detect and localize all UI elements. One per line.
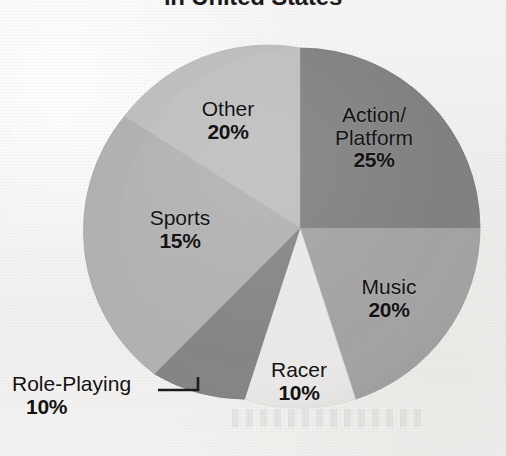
slice-label-action-platform: Action/ Platform 25% xyxy=(311,104,437,172)
slice-name-music: Music xyxy=(337,276,441,299)
slice-name-sports: Sports xyxy=(130,207,230,230)
slice-percent-music: 20% xyxy=(337,299,441,322)
slice-name-action-platform-2: Platform xyxy=(311,127,437,150)
slice-name-action-platform: Action/ xyxy=(311,104,437,127)
slice-percent-other: 20% xyxy=(176,121,280,144)
slice-percent-role-playing: 10% xyxy=(12,396,158,419)
slice-name-racer: Racer xyxy=(249,359,349,382)
slice-percent-sports: 15% xyxy=(130,230,230,253)
slice-label-racer: Racer 10% xyxy=(249,359,349,404)
pie-chart: Action/ Platform 25% Music 20% Racer 10%… xyxy=(0,0,506,456)
slice-name-role-playing: Role-Playing xyxy=(12,373,158,396)
slice-label-other: Other 20% xyxy=(176,98,280,143)
slice-percent-racer: 10% xyxy=(249,382,349,405)
role-playing-leader-line xyxy=(150,370,210,400)
slice-name-other: Other xyxy=(176,98,280,121)
slice-label-sports: Sports 15% xyxy=(130,207,230,252)
pie-chart-page: in United States xyxy=(0,0,506,456)
slice-label-role-playing: Role-Playing 10% xyxy=(12,373,158,418)
slice-label-music: Music 20% xyxy=(337,276,441,321)
slice-percent-action-platform: 25% xyxy=(311,149,437,172)
